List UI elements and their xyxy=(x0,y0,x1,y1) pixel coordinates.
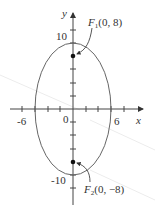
x-axis xyxy=(10,106,143,112)
x-axis-label: x xyxy=(135,114,141,126)
ellipse-diagram: y x 10 -10 -6 6 0 F1(0, 8) F2(0, −8) xyxy=(0,0,155,208)
x-tick-label-6: 6 xyxy=(114,115,120,127)
origin-label: 0 xyxy=(63,113,69,125)
y-tick-label-neg10: -10 xyxy=(51,174,66,186)
background-lines xyxy=(0,75,155,200)
focus-point-2 xyxy=(71,160,76,165)
y-tick-label-10: 10 xyxy=(56,30,68,42)
focus-1-label: F1(0, 8) xyxy=(87,16,122,30)
x-tick-label-neg6: -6 xyxy=(17,115,27,127)
focus-2-label: F2(0, −8) xyxy=(83,183,125,197)
focus-point-1 xyxy=(71,54,76,59)
y-axis-label: y xyxy=(61,7,67,19)
